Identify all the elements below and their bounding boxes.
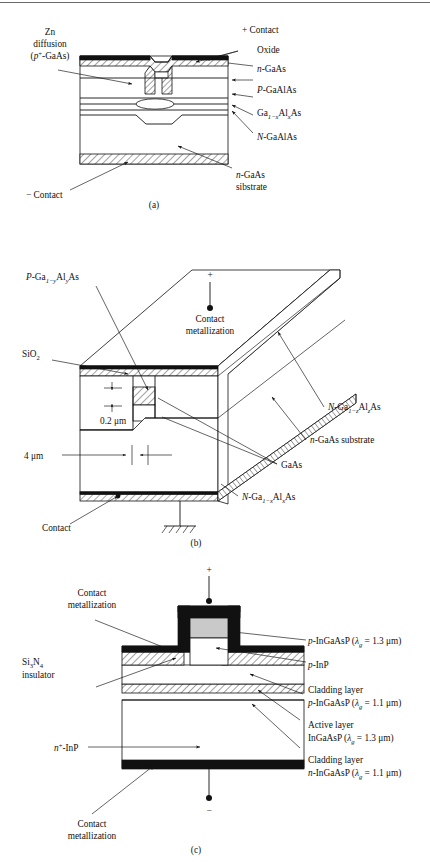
label-sio2: SiO2: [22, 349, 40, 361]
label-dimension-0p2um: 0.2 μm: [100, 416, 127, 426]
label-contact-metallization-c-top-line1: Contact: [78, 588, 107, 598]
label-contact-metallization-c-bottom-line2: metallization: [68, 831, 117, 841]
label-zn-diffusion-line3: (p+-GaAs): [31, 50, 70, 62]
label-c-right-p-inp: p-InP: [307, 660, 329, 670]
label-c-right-p-ingaasp-13: p-InGaAsP (λg = 1.3 μm): [307, 636, 401, 648]
device-a-minus-contact-layer: [80, 154, 228, 164]
label-contact-b: Contact: [42, 523, 71, 533]
device-b-bottom-contact: [80, 492, 218, 501]
label-gaas-b: GaAs: [281, 460, 303, 470]
label-zn-diffusion-line1: Zn: [45, 27, 56, 37]
label-n-gaas-substrate-b: n-GaAs substrate: [310, 435, 374, 445]
figure-b: P-Ga1−yAlyAs SiO2 + Contact metallizatio…: [0, 212, 430, 548]
device-b-sio2-strip: [80, 366, 218, 376]
page-top-rule: [0, 2, 430, 3]
device-c-top-terminal: [206, 576, 212, 604]
label-contact-metallization-b-line1: Contact: [196, 314, 225, 324]
device-b-ground-symbol: [162, 501, 196, 533]
label-p-gaalas: P-GaAlAs: [256, 85, 297, 95]
device-c-bottom-contact-metallization: [122, 760, 304, 769]
label-plus-contact: + Contact: [242, 25, 279, 35]
label-si3n4: Si3N4: [22, 657, 44, 669]
label-contact-metallization-c-bottom-line1: Contact: [78, 819, 107, 829]
label-plus-sign-b: +: [207, 270, 212, 280]
figure-page: Zn diffusion (p+-GaAs) + Contact Oxide n…: [0, 0, 430, 862]
label-n-gaas-substrate: n-GaAs: [236, 170, 265, 180]
label-c-right-cladding-n-line2: n-InGaAsP (λg = 1.1 μm): [308, 768, 401, 780]
label-N-ga1xalx-as: N-Ga1−xAlxAs: [241, 492, 296, 504]
label-c-right-active-line2: InGaAsP (λg = 1.3 μm): [308, 733, 394, 745]
label-oxide: Oxide: [257, 45, 280, 55]
label-terminal-plus-c: +: [206, 565, 211, 575]
figure-c: Contact metallization Si3N4 insulator + …: [0, 548, 430, 862]
label-c-right-active-line1: Active layer: [308, 720, 355, 730]
caption-c: (c): [191, 845, 201, 856]
label-gaalas-ternary: Ga1−xAlxAs: [257, 108, 301, 120]
label-c-right-cladding-p-line2: p-InGaAsP (λg = 1.1 μm): [307, 698, 401, 710]
device-c-active-layer: [122, 684, 304, 693]
device-c-bottom-terminal: [206, 769, 212, 801]
label-N-gaalas: N-GaAlAs: [256, 132, 297, 142]
device-c-substrate-body: [122, 700, 304, 768]
device-c-mesa-interior: [190, 618, 228, 665]
label-c-right-cladding-p-line1: Cladding layer: [308, 685, 364, 695]
figure-a: Zn diffusion (p+-GaAs) + Contact Oxide n…: [0, 18, 430, 212]
label-c-right-cladding-n-line1: Cladding layer: [308, 755, 364, 765]
label-contact-metallization-b-line2: metallization: [186, 326, 235, 336]
label-contact-metallization-c-top-line2: metallization: [68, 600, 117, 610]
caption-a: (a): [149, 200, 159, 211]
label-p-ga1yaly-as: P-Ga1−yAlyAs: [25, 272, 79, 284]
label-n-plus-inp: n+-InP: [54, 742, 78, 753]
label-terminal-minus-c: −: [206, 806, 211, 816]
label-minus-contact: − Contact: [26, 190, 63, 200]
label-zn-diffusion-line2: diffusion: [33, 39, 67, 49]
caption-b: (b): [191, 538, 202, 548]
label-si3n4-line2: insulator: [22, 670, 55, 680]
label-n-gaas: n-GaAs: [257, 64, 286, 74]
label-dimension-4um: 4 μm: [24, 451, 44, 461]
label-n-gaas-substrate-line2: sibstrate: [236, 182, 267, 192]
